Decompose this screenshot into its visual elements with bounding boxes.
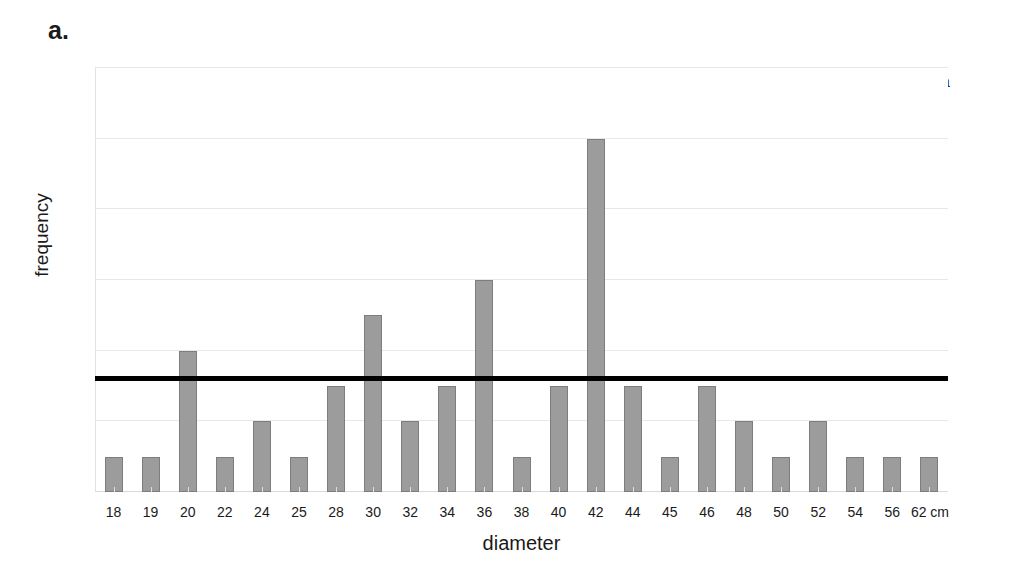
x-tick-label: 38 [503, 505, 540, 519]
bar [253, 421, 271, 492]
x-tick-label: 18 [95, 505, 132, 519]
x-tick-mark [855, 487, 856, 492]
x-tick-mark [596, 487, 597, 492]
bar [401, 421, 419, 492]
bar [624, 386, 642, 492]
x-tick-mark [781, 487, 782, 492]
figure: a. SM 2a frequency diameter 024681012 18… [0, 0, 1013, 578]
x-tick-mark [373, 487, 374, 492]
x-tick-mark [114, 487, 115, 492]
x-tick-mark [336, 487, 337, 492]
x-tick-label: 36 [466, 505, 503, 519]
x-tick-label: 32 [392, 505, 429, 519]
x-tick-mark [892, 487, 893, 492]
plot-area: 024681012 181920222425283032343638404244… [95, 68, 948, 492]
x-tick-label: 50 [763, 505, 800, 519]
bar [475, 280, 493, 492]
x-tick-label: 54 [837, 505, 874, 519]
x-tick-mark [670, 487, 671, 492]
panel-label: a. [48, 18, 69, 43]
x-tick-label: 44 [614, 505, 651, 519]
x-tick-label: 30 [355, 505, 392, 519]
x-tick-mark [484, 487, 485, 492]
x-tick-mark [188, 487, 189, 492]
x-tick-mark [818, 487, 819, 492]
bar [809, 421, 827, 492]
bar [698, 386, 716, 492]
reference-line [95, 376, 948, 381]
y-axis-spine [95, 68, 96, 492]
x-tick-label: 25 [280, 505, 317, 519]
x-tick-label: 62 cm [911, 505, 948, 519]
x-tick-mark [633, 487, 634, 492]
x-tick-label: 46 [688, 505, 725, 519]
x-tick-label: 20 [169, 505, 206, 519]
x-tick-label: 45 [651, 505, 688, 519]
x-tick-label: 40 [540, 505, 577, 519]
bar [364, 315, 382, 492]
x-tick-mark [929, 487, 930, 492]
bar [587, 139, 605, 492]
x-tick-label: 19 [132, 505, 169, 519]
x-tick-mark [559, 487, 560, 492]
x-tick-mark [744, 487, 745, 492]
bar [735, 421, 753, 492]
x-tick-label: 42 [577, 505, 614, 519]
gridline [95, 208, 948, 209]
y-axis-title: frequency [31, 175, 53, 295]
x-tick-label: 52 [800, 505, 837, 519]
gridline [95, 67, 948, 68]
gridline [95, 350, 948, 351]
x-tick-label: 48 [725, 505, 762, 519]
bar [550, 386, 568, 492]
x-tick-mark [410, 487, 411, 492]
x-tick-label: 22 [206, 505, 243, 519]
x-tick-mark [299, 487, 300, 492]
x-tick-mark [225, 487, 226, 492]
x-axis-title: diameter [95, 532, 948, 555]
x-tick-mark [151, 487, 152, 492]
x-tick-mark [522, 487, 523, 492]
gridline [95, 279, 948, 280]
x-tick-mark [707, 487, 708, 492]
x-tick-label: 34 [429, 505, 466, 519]
x-tick-mark [262, 487, 263, 492]
bar [179, 351, 197, 492]
bar [438, 386, 456, 492]
x-tick-label: 56 [874, 505, 911, 519]
x-tick-label: 24 [243, 505, 280, 519]
x-tick-label: 28 [318, 505, 355, 519]
bar [327, 386, 345, 492]
x-tick-mark [447, 487, 448, 492]
gridline [95, 138, 948, 139]
